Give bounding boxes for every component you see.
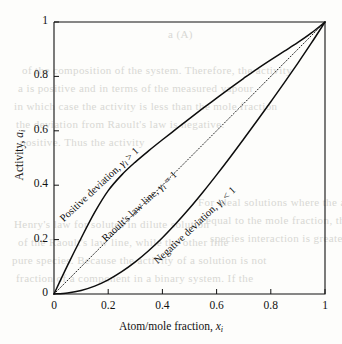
x-tick-label: 0.2: [92, 299, 124, 311]
y-tick-label: 0.8: [18, 68, 48, 80]
y-axis-title: Activity, ai: [13, 105, 27, 205]
x-tick-label: 1: [309, 299, 341, 311]
chart-figure: a (A)of the composition of the system. T…: [0, 0, 342, 344]
x-axis-title: Atom/mole fraction, xi: [0, 320, 342, 334]
y-tick-label: 0.2: [18, 232, 48, 244]
y-axis-ticks: [54, 22, 59, 240]
x-tick-label: 0.8: [255, 299, 287, 311]
x-tick-label: 0.6: [201, 299, 233, 311]
y-tick-label: 1: [18, 14, 48, 26]
x-tick-label: 0.4: [146, 299, 178, 311]
raoults-law-line: [54, 22, 325, 294]
x-axis-ticks: [108, 289, 325, 294]
y-tick-label: 0: [18, 286, 48, 298]
x-tick-label: 0: [38, 299, 70, 311]
